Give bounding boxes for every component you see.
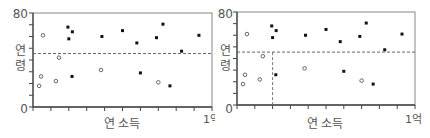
data-point-filled xyxy=(270,24,273,27)
data-point-filled xyxy=(67,37,70,40)
data-point-open xyxy=(303,67,307,71)
data-point-filled xyxy=(342,70,345,73)
x-axis-label: 연 소득 xyxy=(307,117,344,131)
x-axis-label: 연 소득 xyxy=(104,117,141,131)
data-point-open xyxy=(360,79,364,83)
y-axis-label-1: 연 xyxy=(220,44,231,58)
data-point-filled xyxy=(121,29,124,32)
data-point-open xyxy=(261,54,265,58)
data-point-filled xyxy=(339,40,342,43)
x-tick-end: 1억 xyxy=(405,113,422,126)
plot-area xyxy=(233,12,415,109)
data-point-filled xyxy=(275,29,278,32)
scatter-chart-right: 80 0 1억 연 령 연 소득 xyxy=(215,0,430,138)
data-point-filled xyxy=(71,30,74,33)
data-point-open xyxy=(243,73,247,77)
plot-area xyxy=(29,13,212,111)
data-point-filled xyxy=(401,33,404,36)
scatter-chart-left: 80 0 1억 연 령 연 소득 xyxy=(0,0,215,138)
y-tick-top: 80 xyxy=(13,7,28,21)
data-point-open xyxy=(37,84,41,88)
y-tick-bottom: 0 xyxy=(225,102,233,116)
data-point-open xyxy=(39,75,43,79)
plot-frame xyxy=(33,13,212,107)
data-point-filled xyxy=(71,75,74,78)
data-point-open xyxy=(54,79,58,83)
data-point-open xyxy=(157,81,161,85)
data-point-open xyxy=(241,82,245,86)
data-point-filled xyxy=(325,28,328,31)
plot-frame xyxy=(237,12,415,105)
data-point-filled xyxy=(66,26,69,29)
data-point-open xyxy=(57,56,61,60)
data-point-filled xyxy=(100,35,103,38)
data-point-filled xyxy=(383,48,386,51)
y-tick-bottom: 0 xyxy=(20,102,28,116)
data-point-filled xyxy=(180,50,183,53)
data-point-open xyxy=(99,68,103,72)
data-point-filled xyxy=(365,22,368,25)
x-tick-end: 1억 xyxy=(203,113,215,126)
data-point-filled xyxy=(271,36,274,39)
data-point-open xyxy=(245,32,249,36)
data-point-filled xyxy=(139,71,142,74)
data-point-filled xyxy=(135,41,138,44)
data-point-filled xyxy=(372,83,375,86)
data-point-filled xyxy=(274,73,277,76)
y-axis-label-2: 령 xyxy=(220,59,231,73)
data-point-open xyxy=(41,34,45,38)
data-point-filled xyxy=(358,35,361,38)
y-axis-label-2: 령 xyxy=(15,59,26,73)
y-tick-top: 80 xyxy=(218,7,233,21)
data-point-filled xyxy=(155,36,158,39)
data-point-filled xyxy=(168,84,171,87)
data-point-filled xyxy=(161,23,164,26)
data-point-filled xyxy=(197,34,200,37)
y-axis-label-1: 연 xyxy=(15,44,26,58)
data-point-filled xyxy=(304,34,307,37)
data-point-open xyxy=(258,78,262,82)
